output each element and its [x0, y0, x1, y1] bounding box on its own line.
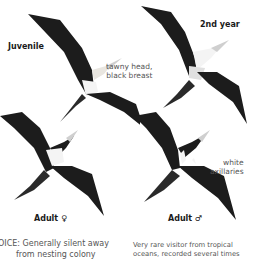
- tawny-line-1: tawny head,: [106, 62, 152, 71]
- white-line-2: axillaries: [210, 167, 244, 176]
- status-line-1: Very rare visitor from tropical: [133, 241, 240, 250]
- white-axillaries-annotation: white axillaries: [210, 158, 244, 176]
- adult-male-label: Adult ♂: [168, 214, 202, 223]
- voice-line-1: OICE: Generally silent away: [0, 238, 109, 249]
- status-line-2: oceans, recorded several times: [133, 250, 240, 259]
- status-description: Very rare visitor from tropical oceans, …: [133, 241, 240, 259]
- white-line-1: white: [210, 158, 244, 167]
- tawny-line-2: black breast: [106, 71, 152, 80]
- tawny-head-annotation: tawny head, black breast: [106, 62, 152, 80]
- adult-female-frigatebird-illustration: [0, 108, 115, 223]
- juvenile-label: Juvenile: [8, 42, 44, 51]
- voice-description: OICE: Generally silent away from nesting…: [0, 238, 109, 260]
- second-year-label: 2nd year: [200, 20, 240, 29]
- voice-line-2: from nesting colony: [0, 249, 109, 260]
- adult-female-label: Adult ♀: [34, 214, 67, 223]
